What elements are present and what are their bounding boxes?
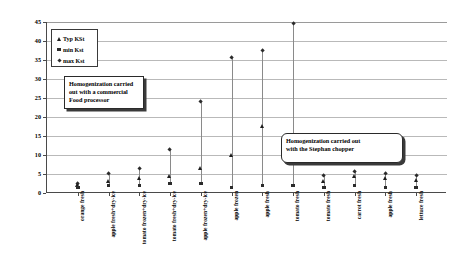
y-axis-tick-label: 45 <box>15 19 41 25</box>
diamond-marker-icon <box>55 59 63 62</box>
gridline <box>47 41 447 42</box>
y-axis-tick-mark <box>43 193 46 194</box>
square-marker-icon <box>55 48 63 51</box>
typ-marker <box>260 124 264 128</box>
gridline <box>47 22 447 23</box>
y-axis-tick-mark <box>43 174 46 175</box>
annotation-line: Homogenization carried out <box>286 137 398 145</box>
max-marker <box>260 48 265 53</box>
range-connector <box>170 149 171 183</box>
y-axis-tick-mark <box>43 117 46 118</box>
annotation-line: Food processor <box>69 96 139 104</box>
y-axis-tick-mark <box>43 79 46 80</box>
y-axis-tick-label: 5 <box>15 171 41 177</box>
max-marker <box>199 99 204 104</box>
x-axis-tick-label: apple fresh <box>264 191 270 271</box>
annotation-line: out with a commercial <box>69 88 139 96</box>
x-axis-tick-label: orange fresh <box>79 191 85 271</box>
min-marker <box>230 186 234 190</box>
x-axis-tick-label: tomato fresh <box>325 191 331 271</box>
annotation-line: Homogenization carried <box>69 80 139 88</box>
x-axis-tick-label: apple fresh+dry-ice <box>110 191 116 271</box>
x-axis-tick-label: apple frozen <box>233 191 239 271</box>
y-axis-tick-label: 10 <box>15 152 41 158</box>
typ-marker <box>383 176 387 180</box>
min-marker <box>199 182 203 186</box>
typ-marker <box>198 166 202 170</box>
legend-label: Typ KSt <box>63 36 84 42</box>
min-marker <box>322 186 326 190</box>
annotation-food-processor: Homogenization carried out with a commer… <box>64 76 144 109</box>
y-axis-tick-mark <box>43 22 46 23</box>
x-axis-tick-label: apple fresh <box>387 191 393 271</box>
min-marker <box>384 186 388 190</box>
y-axis-tick-mark <box>43 136 46 137</box>
legend-label: min Kst <box>63 47 84 53</box>
y-axis-tick-mark <box>43 60 46 61</box>
min-marker <box>168 182 172 186</box>
x-axis-tick-label: apple frozen+dry-ice <box>202 191 208 271</box>
chart-legend: Typ KSt min Kst max Kst <box>51 29 98 67</box>
y-axis-tick-label: 15 <box>15 133 41 139</box>
max-marker <box>106 172 111 177</box>
x-axis-tick-label: tomato fresh+dry-ice <box>171 191 177 271</box>
legend-label: max Kst <box>63 58 85 64</box>
typ-marker <box>137 176 141 180</box>
typ-marker <box>321 179 325 183</box>
max-marker <box>168 147 173 152</box>
min-marker <box>353 184 357 188</box>
y-axis-tick-label: 25 <box>15 95 41 101</box>
y-axis-tick-mark <box>43 41 46 42</box>
range-connector <box>232 58 233 187</box>
y-axis-tick-label: 0 <box>15 190 41 196</box>
min-marker <box>291 184 295 188</box>
chart-figure: Kst (kg) Typ KSt min Kst max Kst Homogen… <box>0 0 456 277</box>
range-connector <box>201 102 202 184</box>
legend-item-max: max Kst <box>55 55 97 66</box>
triangle-marker-icon <box>55 37 63 41</box>
y-axis-tick-label: 40 <box>15 38 41 44</box>
y-axis-tick-mark <box>43 98 46 99</box>
legend-item-typ: Typ KSt <box>55 33 97 44</box>
max-marker <box>291 21 296 26</box>
x-axis-tick-label: carrot fresh <box>356 191 362 271</box>
annotation-stephan-chopper: Homogenization carried out with the Step… <box>281 133 403 163</box>
typ-marker <box>229 153 233 157</box>
x-axis-tick-label: lettuce fresh <box>418 191 424 271</box>
y-axis-tick-label: 20 <box>15 114 41 120</box>
gridline <box>47 60 447 61</box>
legend-item-min: min Kst <box>55 44 97 55</box>
y-axis-tick-label: 30 <box>15 76 41 82</box>
min-marker <box>107 184 111 188</box>
max-marker <box>137 166 142 171</box>
min-marker <box>76 186 80 190</box>
min-marker <box>414 186 418 190</box>
typ-marker <box>352 174 356 178</box>
x-axis-tick-label: tomato fresh <box>294 191 300 271</box>
y-axis-tick-label: 35 <box>15 57 41 63</box>
y-axis-tick-mark <box>43 155 46 156</box>
annotation-line: with the Stephan chopper <box>286 145 398 153</box>
min-marker <box>261 184 265 188</box>
x-axis-tick-label: tomato frozen+dry-ice <box>141 191 147 271</box>
gridline <box>47 117 447 118</box>
typ-marker <box>414 178 418 182</box>
typ-marker <box>167 174 171 178</box>
min-marker <box>138 184 142 188</box>
range-connector <box>262 51 263 186</box>
